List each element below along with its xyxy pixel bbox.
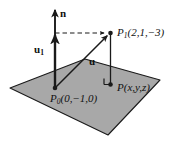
label-u-text: u [89, 55, 95, 67]
label-vector-u1: u1 [34, 44, 44, 55]
label-p1-base: P [117, 26, 124, 38]
label-vector-u: u [89, 56, 95, 67]
label-p0-base: P [50, 92, 57, 104]
label-p0-coords: (0,−1,0) [60, 92, 97, 104]
label-p-base: P [117, 81, 124, 93]
point-dot-p [108, 82, 113, 87]
label-n-text: n [60, 7, 66, 19]
figure-canvas [0, 0, 175, 150]
label-point-p0: P0(0,−1,0) [50, 93, 97, 104]
point-dot-p0 [53, 86, 58, 91]
label-u1-subscript: 1 [40, 48, 44, 57]
vector-plane-figure: n u1 u P1(2,1,−3) P0(0,−1,0) P(x,y,z) [0, 0, 175, 150]
label-point-p1: P1(2,1,−3) [117, 27, 164, 38]
label-p0-subscript: 0 [57, 97, 61, 106]
point-dot-p1 [108, 31, 113, 36]
label-point-p: P(x,y,z) [117, 82, 150, 93]
label-p-coords: (x,y,z) [124, 81, 150, 93]
label-normal-vector-n: n [60, 8, 66, 19]
label-p1-coords: (2,1,−3) [127, 26, 164, 38]
label-p1-subscript: 1 [124, 31, 128, 40]
